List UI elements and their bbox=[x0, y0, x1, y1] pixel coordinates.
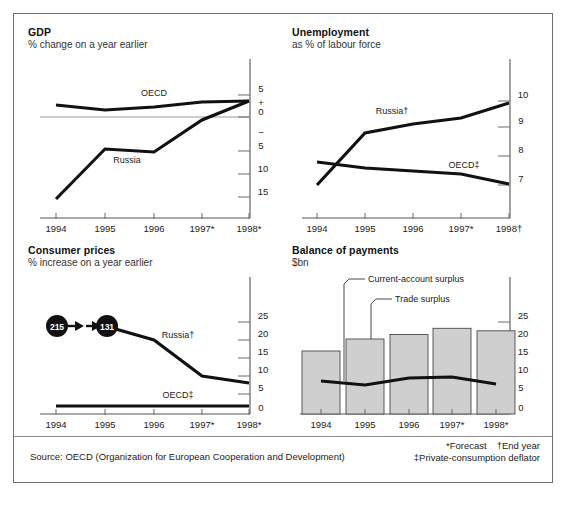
unemp-xlabel-1994: 1994 bbox=[306, 223, 327, 234]
bop-bar-1998 bbox=[477, 331, 515, 414]
bop-xlabel-1998: 1998* bbox=[484, 419, 509, 430]
bop-ylabel-25: 25 bbox=[518, 310, 529, 321]
cpi-ylabel-15: 15 bbox=[258, 346, 269, 357]
cpi-xlabel-1994: 1994 bbox=[45, 419, 66, 430]
chart-unemployment-title: Unemployment bbox=[292, 26, 542, 38]
unemp-xlabel-1995: 1995 bbox=[354, 223, 375, 234]
chart-consumer-prices: Consumer prices % increase on a year ear… bbox=[28, 244, 278, 444]
bop-annotation-trade-surplus: Trade surplus bbox=[395, 294, 450, 304]
cpi-callout-value-215: 215 bbox=[50, 322, 64, 332]
gdp-xlabel-1997: 1997* bbox=[190, 223, 215, 234]
chart-consumer-prices-plot: 25 20 15 10 5 0 1994 1995 1996 1997* 199… bbox=[28, 274, 278, 439]
footnote-deflator: ‡Private-consumption deflator bbox=[310, 452, 540, 464]
cpi-ylabel-10: 10 bbox=[258, 364, 269, 375]
unemp-ylabel-8: 8 bbox=[518, 144, 523, 155]
cpi-ylabel-20: 20 bbox=[258, 328, 269, 339]
cpi-ylabel-25: 25 bbox=[258, 310, 269, 321]
bop-ylabel-20: 20 bbox=[518, 328, 529, 339]
unemp-xlabel-1998: 1998† bbox=[496, 223, 522, 234]
bop-annotation-current-account: Current-account surplus bbox=[368, 274, 465, 284]
gdp-ylabel-5: 5 bbox=[258, 83, 263, 94]
unemp-xlabel-1997: 1997* bbox=[449, 223, 474, 234]
cpi-xlabel-1996: 1996 bbox=[143, 419, 164, 430]
unemp-series-oecd bbox=[317, 162, 509, 184]
cpi-callout-value-131: 131 bbox=[100, 322, 114, 332]
bop-bar-1995 bbox=[346, 339, 384, 414]
gdp-series-label-oecd: OECD bbox=[141, 88, 168, 98]
bop-bar-1996 bbox=[390, 335, 428, 415]
chart-balance-of-payments: Balance of payments $bn 25 20 15 10 5 0 bbox=[292, 244, 542, 444]
gdp-ylabel-neg15: 15 bbox=[258, 186, 269, 197]
unemp-ylabel-7: 7 bbox=[518, 173, 523, 184]
cpi-series-label-russia: Russia† bbox=[162, 330, 195, 340]
cpi-xlabel-1998: 1998* bbox=[237, 419, 262, 430]
chart-unemployment-subtitle: as % of labour force bbox=[292, 39, 542, 51]
gdp-series-russia bbox=[56, 101, 249, 199]
chart-unemployment-plot: 10 9 8 7 1994 1995 1996 1997* 1998† Russ… bbox=[292, 56, 542, 221]
chart-balance-of-payments-title: Balance of payments bbox=[292, 244, 542, 256]
bop-ylabel-0: 0 bbox=[518, 402, 523, 413]
chart-gdp: GDP % change on a year earlier 5 + 0 − bbox=[28, 26, 278, 226]
unemp-xlabel-1996: 1996 bbox=[402, 223, 423, 234]
footer-divider bbox=[14, 436, 552, 437]
chart-gdp-title: GDP bbox=[28, 26, 278, 38]
cpi-ylabel-5: 5 bbox=[258, 382, 263, 393]
gdp-xlabel-1995: 1995 bbox=[94, 223, 115, 234]
cpi-xlabel-1997: 1997* bbox=[190, 419, 215, 430]
bop-ylabel-5: 5 bbox=[518, 382, 523, 393]
bop-xlabel-1995: 1995 bbox=[354, 419, 375, 430]
bop-bar-1997 bbox=[433, 328, 471, 414]
figure-panel: GDP % change on a year earlier 5 + 0 − bbox=[13, 13, 553, 483]
gdp-series-oecd bbox=[56, 101, 249, 110]
source-note: Source: OECD (Organization for European … bbox=[30, 451, 345, 463]
chart-consumer-prices-title: Consumer prices bbox=[28, 244, 278, 256]
footnote-forecast: *Forecast bbox=[446, 440, 487, 451]
footnotes: *Forecast†End year ‡Private-consumption … bbox=[310, 440, 540, 464]
bop-annotation-leader-current-account bbox=[344, 279, 365, 284]
chart-gdp-subtitle: % change on a year earlier bbox=[28, 39, 278, 51]
gdp-ylabel-neg5: 5 bbox=[258, 140, 263, 151]
gdp-ylabel-0: 0 bbox=[258, 106, 263, 117]
bop-xlabel-1994: 1994 bbox=[310, 419, 331, 430]
footnote-end-year: †End year bbox=[497, 440, 540, 451]
gdp-xlabel-1994: 1994 bbox=[45, 223, 66, 234]
bop-ylabel-10: 10 bbox=[518, 364, 529, 375]
unemp-ylabel-9: 9 bbox=[518, 115, 523, 126]
unemp-ylabel-10: 10 bbox=[518, 89, 529, 100]
gdp-ylabel-minus: − bbox=[258, 127, 264, 138]
bop-xlabel-1997: 1997* bbox=[440, 419, 465, 430]
gdp-series-label-russia: Russia bbox=[113, 155, 141, 165]
gdp-ylabel-neg10: 10 bbox=[258, 163, 269, 174]
unemp-series-label-russia: Russia† bbox=[376, 106, 409, 116]
chart-balance-of-payments-plot: 25 20 15 10 5 0 Current-account surplus bbox=[292, 274, 542, 439]
cpi-callout-arrowhead-1 bbox=[75, 321, 84, 331]
unemp-series-label-oecd: OECD‡ bbox=[448, 160, 479, 170]
chart-unemployment: Unemployment as % of labour force 10 9 8… bbox=[292, 26, 542, 226]
chart-balance-of-payments-subtitle: $bn bbox=[292, 257, 542, 269]
bop-annotation-leader-trade bbox=[371, 299, 392, 304]
chart-gdp-plot: 5 + 0 − 5 10 15 1994 1995 1996 1997* 199… bbox=[28, 56, 278, 221]
cpi-series-label-oecd: OECD‡ bbox=[162, 390, 193, 400]
footnote-row-1: *Forecast†End year bbox=[310, 440, 540, 452]
cpi-ylabel-0: 0 bbox=[258, 402, 263, 413]
bop-xlabel-1996: 1996 bbox=[398, 419, 419, 430]
unemp-series-russia bbox=[317, 103, 509, 185]
gdp-xlabel-1996: 1996 bbox=[143, 223, 164, 234]
chart-consumer-prices-subtitle: % increase on a year earlier bbox=[28, 257, 278, 269]
gdp-xlabel-1998: 1998* bbox=[237, 223, 262, 234]
bop-ylabel-15: 15 bbox=[518, 346, 529, 357]
cpi-xlabel-1995: 1995 bbox=[94, 419, 115, 430]
